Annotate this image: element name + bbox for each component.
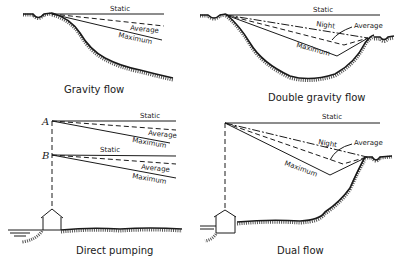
- pump-house-icon: [214, 210, 236, 233]
- caption-dual-flow: Dual flow: [277, 245, 324, 256]
- night-line: [225, 123, 367, 157]
- b-maximum-label: Maximum: [132, 172, 168, 186]
- water-source: [200, 226, 216, 229]
- point-b-label: B: [41, 150, 49, 161]
- average-label: Average: [354, 139, 383, 147]
- panel-dual-flow: Static Night Average Maximum Dual flow: [200, 113, 392, 256]
- night-label: Night: [316, 20, 336, 31]
- pump-house-icon: [41, 209, 63, 230]
- panel-direct-pumping: A B Static Average Maximum Static Averag…: [8, 112, 182, 256]
- point-a-label: A: [41, 116, 49, 127]
- panel-double-gravity-flow: Static Night Average Maximum Double grav…: [200, 6, 394, 103]
- static-label: Static: [313, 6, 333, 14]
- night-label: Night: [318, 138, 338, 149]
- caption-double-gravity-flow: Double gravity flow: [268, 92, 366, 103]
- average-line: [52, 14, 164, 26]
- maximum-line: [226, 15, 368, 56]
- caption-direct-pumping: Direct pumping: [76, 245, 153, 256]
- caption-gravity-flow: Gravity flow: [64, 84, 124, 95]
- diagram-canvas: Static Average Maximum Gravity flow Stat…: [0, 0, 402, 266]
- static-label: Static: [322, 113, 342, 121]
- maximum-label: Maximum: [283, 159, 318, 178]
- maximum-label: Maximum: [295, 41, 331, 58]
- a-average-line: [52, 121, 176, 130]
- night-line: [226, 15, 368, 38]
- average-label: Average: [354, 22, 383, 30]
- panel-gravity-flow: Static Average Maximum Gravity flow: [23, 5, 173, 95]
- a-static-label: Static: [140, 112, 160, 120]
- b-static-label: Static: [100, 146, 120, 154]
- a-average-label: Average: [148, 129, 177, 140]
- static-label: Static: [110, 5, 130, 13]
- water-source: [8, 230, 43, 236]
